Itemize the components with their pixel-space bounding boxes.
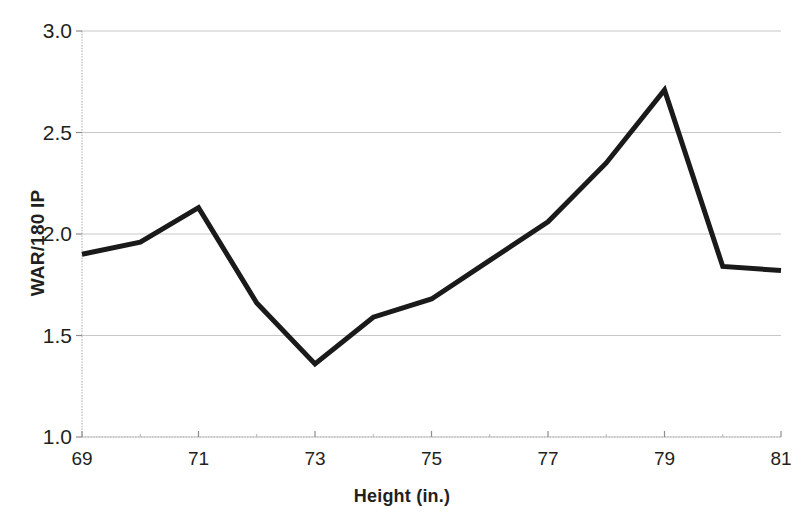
chart-plot-area xyxy=(0,0,804,519)
x-tick-label: 77 xyxy=(518,449,578,468)
x-tick-label: 75 xyxy=(402,449,462,468)
y-axis-title: WAR/180 IP xyxy=(27,153,49,333)
x-tick-label: 81 xyxy=(751,449,804,468)
x-tick-label: 73 xyxy=(285,449,345,468)
data-series-group xyxy=(82,90,781,364)
x-tick-label: 69 xyxy=(52,449,112,468)
gridlines-group xyxy=(82,31,781,437)
x-tick-label: 71 xyxy=(169,449,229,468)
y-tick-label: 3.0 xyxy=(10,20,72,41)
y-tick-label: 2.5 xyxy=(10,122,72,143)
x-tick-label: 79 xyxy=(635,449,695,468)
chart-container: 1.01.52.02.53.0 69717375777981 WAR/180 I… xyxy=(0,0,804,519)
data-line-war-180-ip xyxy=(82,90,781,364)
y-tick-label: 1.0 xyxy=(10,426,72,447)
x-axis-title: Height (in.) xyxy=(0,486,804,507)
